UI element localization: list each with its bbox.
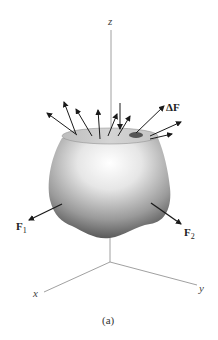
x-axis-label: x <box>32 287 38 299</box>
f1-label: F1 <box>16 220 27 235</box>
axes-lower <box>44 238 197 292</box>
z-axis-label: z <box>107 15 113 27</box>
f2-label: F2 <box>184 226 195 241</box>
y-axis-label: y <box>198 282 204 294</box>
body-shape <box>49 138 171 238</box>
delta-f-label: ΔF <box>166 101 180 113</box>
free-body-diagram: z ΔF F1 F2 x y (a) <box>0 0 218 340</box>
figure-caption: (a) <box>102 314 115 327</box>
